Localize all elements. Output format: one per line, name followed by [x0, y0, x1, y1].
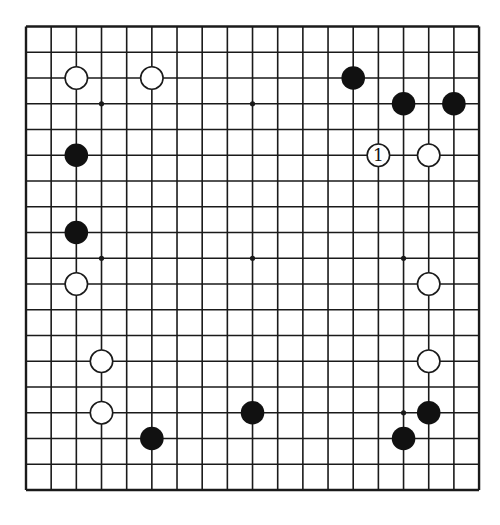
white-stone[interactable]	[418, 144, 440, 166]
black-stone-icon	[140, 427, 164, 451]
black-stone-icon	[392, 427, 416, 451]
black-stone-icon	[442, 92, 466, 116]
star-point	[99, 256, 104, 261]
star-point	[250, 256, 255, 261]
white-stone-icon	[141, 67, 163, 89]
star-point	[250, 101, 255, 106]
black-stone[interactable]	[140, 427, 164, 451]
white-stone-icon	[418, 144, 440, 166]
white-stone-icon	[90, 350, 112, 372]
white-stone[interactable]	[65, 67, 87, 89]
white-stone[interactable]	[418, 350, 440, 372]
black-stone[interactable]	[392, 92, 416, 116]
white-stone[interactable]	[141, 67, 163, 89]
black-stone-icon	[341, 66, 365, 90]
star-point	[401, 410, 406, 415]
star-point	[401, 256, 406, 261]
white-stone-icon	[65, 67, 87, 89]
black-stone-icon	[417, 401, 441, 425]
go-board[interactable]: 1	[0, 0, 500, 525]
black-stone[interactable]	[442, 92, 466, 116]
black-stone[interactable]	[392, 427, 416, 451]
white-stone[interactable]	[90, 402, 112, 424]
white-stone-icon	[65, 273, 87, 295]
white-stone-icon	[90, 402, 112, 424]
black-stone[interactable]	[65, 143, 89, 167]
white-stone-icon	[418, 273, 440, 295]
white-stone[interactable]	[418, 273, 440, 295]
white-stone[interactable]	[90, 350, 112, 372]
black-stone[interactable]	[241, 401, 265, 425]
star-point	[99, 101, 104, 106]
white-stone[interactable]	[65, 273, 87, 295]
black-stone[interactable]	[65, 221, 89, 245]
go-board-canvas[interactable]: 1	[0, 0, 500, 525]
move-number-label: 1	[373, 145, 384, 165]
black-stone-icon	[241, 401, 265, 425]
black-stone-icon	[65, 221, 89, 245]
black-stone[interactable]	[341, 66, 365, 90]
black-stone-icon	[392, 92, 416, 116]
black-stone[interactable]	[417, 401, 441, 425]
black-stone-icon	[65, 143, 89, 167]
white-stone-icon	[418, 350, 440, 372]
white-stone[interactable]: 1	[367, 144, 389, 166]
